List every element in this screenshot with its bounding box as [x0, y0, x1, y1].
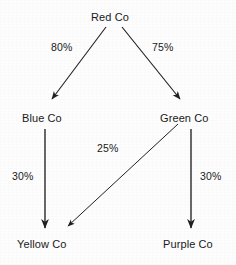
edge-label-blue-to-yellow: 30%	[12, 170, 33, 182]
edge-label-red-to-blue: 80%	[51, 41, 72, 53]
node-yellow-co: Yellow Co	[17, 238, 66, 251]
node-red-co: Red Co	[91, 11, 129, 24]
edge-green-to-yellow	[68, 124, 178, 226]
node-green-co: Green Co	[160, 112, 209, 125]
ownership-diagram: Red Co Blue Co Green Co Yellow Co Purple…	[0, 0, 236, 265]
edge-label-green-to-purple: 30%	[200, 170, 221, 182]
edge-layer	[0, 0, 236, 265]
edge-red-to-green	[122, 27, 180, 99]
edge-red-to-blue	[52, 27, 106, 99]
node-purple-co: Purple Co	[163, 238, 213, 251]
node-blue-co: Blue Co	[22, 112, 62, 125]
edge-label-green-to-yellow: 25%	[97, 142, 118, 154]
edge-label-red-to-green: 75%	[152, 41, 173, 53]
